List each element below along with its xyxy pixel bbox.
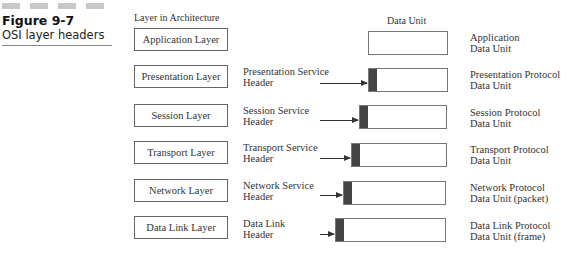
network-header-block <box>344 182 352 204</box>
figure-decor-bar <box>2 3 20 9</box>
presentation-layer-box: Presentation Layer <box>134 65 228 88</box>
pdu-label-line1: Transport Protocol <box>470 144 549 155</box>
presentation-pdu-label: Presentation Protocol Data Unit <box>470 69 560 91</box>
network-pdu-label: Network Protocol Data Unit (packet) <box>470 182 548 204</box>
application-pdu-label: Application Data Unit <box>470 32 520 54</box>
network-header-label: Network Service Header <box>243 180 314 202</box>
pdu-label-line1: Presentation Protocol <box>470 69 560 80</box>
pdu-label-line2: Data Unit <box>470 80 560 91</box>
pdu-label-line2: Data Unit (packet) <box>470 193 548 204</box>
data-unit-column-heading: Data Unit <box>387 15 426 26</box>
figure-decor-bar <box>86 3 104 9</box>
data-link-pdu-label: Data Link Protocol Data Unit (frame) <box>470 220 550 242</box>
arrow-icon <box>320 195 342 196</box>
transport-header-block <box>352 144 360 166</box>
pdu-label-line2: Data Unit <box>470 118 540 129</box>
session-pdu <box>359 105 447 129</box>
transport-layer-box: Transport Layer <box>134 141 228 164</box>
header-label-line2: Header <box>243 77 329 88</box>
application-data-unit <box>368 31 448 55</box>
caption-divider <box>2 45 112 46</box>
transport-header-label: Transport Service Header <box>243 142 318 164</box>
pdu-label-line1: Application <box>470 32 520 43</box>
presentation-header-label: Presentation Service Header <box>243 66 329 88</box>
figure-decor-bar <box>30 3 48 9</box>
pdu-label-line1: Session Protocol <box>470 107 540 118</box>
transport-pdu <box>351 143 447 167</box>
data-link-header-label: Data Link Header <box>243 218 285 240</box>
data-link-layer-box: Data Link Layer <box>134 216 228 239</box>
session-layer-box: Session Layer <box>134 104 228 127</box>
figure-caption: OSI layer headers <box>2 28 104 42</box>
layer-column-heading: Layer in Architecture <box>134 12 220 23</box>
data-link-header-block <box>336 219 344 241</box>
header-label-line2: Header <box>243 191 314 202</box>
figure-decor-bar <box>58 3 76 9</box>
pdu-label-line1: Data Link Protocol <box>470 220 550 231</box>
network-pdu <box>343 181 446 205</box>
header-label-line1: Session Service <box>243 105 309 116</box>
session-header-block <box>360 106 368 128</box>
pdu-label-line2: Data Unit <box>470 43 520 54</box>
arrow-icon <box>320 234 334 235</box>
presentation-pdu <box>368 68 448 92</box>
figure-number: Figure 9-7 <box>2 13 74 28</box>
header-label-line1: Presentation Service <box>243 66 329 77</box>
transport-pdu-label: Transport Protocol Data Unit <box>470 144 549 166</box>
presentation-header-block <box>369 69 377 91</box>
header-label-line2: Header <box>243 116 309 127</box>
header-label-line1: Data Link <box>243 218 285 229</box>
application-layer-box: Application Layer <box>134 28 228 51</box>
header-label-line2: Header <box>243 229 285 240</box>
header-label-line1: Network Service <box>243 180 314 191</box>
session-pdu-label: Session Protocol Data Unit <box>470 107 540 129</box>
network-layer-box: Network Layer <box>134 179 228 202</box>
header-label-line1: Transport Service <box>243 142 318 153</box>
session-header-label: Session Service Header <box>243 105 309 127</box>
header-label-line2: Header <box>243 153 318 164</box>
arrow-icon <box>320 158 350 159</box>
arrow-icon <box>320 120 358 121</box>
arrow-icon <box>320 83 367 84</box>
pdu-label-line2: Data Unit (frame) <box>470 231 550 242</box>
pdu-label-line2: Data Unit <box>470 155 549 166</box>
pdu-label-line1: Network Protocol <box>470 182 548 193</box>
data-link-pdu <box>335 218 446 242</box>
